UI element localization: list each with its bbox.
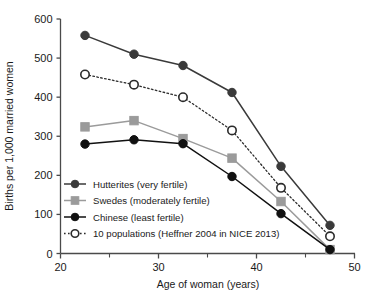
data-point-1 xyxy=(130,80,138,88)
data-point-2 xyxy=(179,139,187,147)
legend-label: Hutterites (very fertile) xyxy=(93,179,187,190)
data-point-4 xyxy=(277,197,285,205)
data-point-legend-1 xyxy=(71,197,79,205)
data-point-5 xyxy=(326,245,334,253)
data-point-3 xyxy=(228,88,236,96)
legend-label: Swedes (moderately fertile) xyxy=(93,195,210,206)
legend-label: Chinese (least fertile) xyxy=(93,212,184,223)
data-point-0 xyxy=(81,31,89,39)
data-point-3 xyxy=(228,172,236,180)
data-point-0 xyxy=(81,140,89,148)
y-tick-label: 600 xyxy=(34,13,52,25)
data-point-4 xyxy=(277,209,285,217)
data-point-3 xyxy=(228,154,236,162)
fertility-line-chart: 0100200300400500600 20304050 Age of woma… xyxy=(0,0,367,299)
data-point-1 xyxy=(130,116,138,124)
data-point-legend-2 xyxy=(71,213,79,221)
x-axis-title: Age of woman (years) xyxy=(157,278,260,290)
x-tick-label: 30 xyxy=(152,261,164,273)
y-tick-label: 200 xyxy=(34,169,52,181)
y-axis-title: Births per 1,000 married women xyxy=(3,61,15,211)
data-point-3 xyxy=(228,126,236,134)
data-point-5 xyxy=(326,232,334,240)
x-tick-label: 20 xyxy=(54,261,66,273)
chart-container: 0100200300400500600 20304050 Age of woma… xyxy=(0,0,367,299)
legend-label: 10 populations (Heffner 2004 in NICE 201… xyxy=(93,228,280,239)
x-tick-label: 50 xyxy=(348,261,360,273)
data-point-legend-3 xyxy=(71,230,79,238)
y-tick-label: 100 xyxy=(34,208,52,220)
data-point-1 xyxy=(130,50,138,58)
y-tick-label: 300 xyxy=(34,130,52,142)
data-point-2 xyxy=(179,93,187,101)
data-point-5 xyxy=(326,221,334,229)
data-point-1 xyxy=(130,136,138,144)
y-tick-label: 400 xyxy=(34,91,52,103)
data-point-4 xyxy=(277,184,285,192)
data-point-legend-0 xyxy=(71,180,79,188)
data-point-0 xyxy=(81,123,89,131)
y-tick-label: 500 xyxy=(34,52,52,64)
data-point-4 xyxy=(277,162,285,170)
data-point-0 xyxy=(81,70,89,78)
data-point-2 xyxy=(179,61,187,69)
x-tick-label: 40 xyxy=(250,261,262,273)
legend-item-3[interactable]: 10 populations (Heffner 2004 in NICE 201… xyxy=(64,228,280,239)
y-tick-label: 0 xyxy=(46,248,52,260)
